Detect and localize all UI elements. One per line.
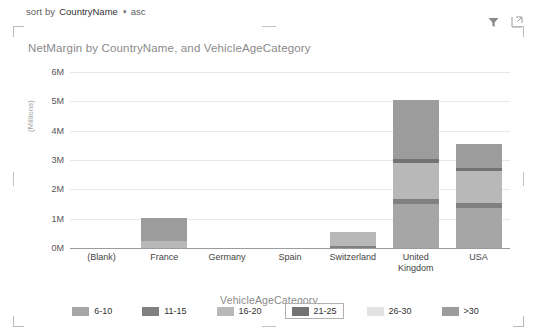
chart-legend: 6-1011-1516-2021-2526-30>30 <box>28 302 523 320</box>
chevron-down-icon[interactable]: ▾ <box>123 8 127 15</box>
legend-item[interactable]: 11-15 <box>135 303 193 319</box>
resize-handle-bottom[interactable] <box>262 326 276 327</box>
y-axis-tick-label: 1M <box>32 214 64 224</box>
y-axis-tick-label: 2M <box>32 184 64 194</box>
legend-label: 26-30 <box>389 306 412 316</box>
legend-label: >30 <box>464 306 479 316</box>
resize-handle-right[interactable] <box>523 172 524 186</box>
x-axis-tick-label: France <box>133 252 196 263</box>
bar-segment[interactable] <box>141 241 187 248</box>
bar-stack[interactable] <box>141 218 187 248</box>
bar-segment[interactable] <box>393 100 439 159</box>
legend-item[interactable]: 6-10 <box>65 303 119 319</box>
legend-swatch <box>142 307 159 316</box>
x-axis-tick-label: USA <box>447 252 510 263</box>
chart-title: NetMargin by CountryName, and VehicleAge… <box>28 42 311 54</box>
chart-plot-area: (Millions) 0M1M2M3M4M5M6M (Blank)FranceG… <box>28 72 510 272</box>
y-axis-tick-label: 5M <box>32 96 64 106</box>
legend-item[interactable]: >30 <box>435 303 486 319</box>
legend-item[interactable]: 26-30 <box>360 303 419 319</box>
x-axis-tick-label: Switzerland <box>321 252 384 263</box>
x-axis-tick-label: Germany <box>196 252 259 263</box>
legend-label: 11-15 <box>164 306 186 316</box>
x-axis-tick-label: (Blank) <box>70 252 133 263</box>
y-axis-tick-label: 3M <box>32 155 64 165</box>
legend-swatch <box>217 307 234 316</box>
sort-direction-button[interactable]: asc <box>131 6 146 17</box>
bar-segment[interactable] <box>456 171 502 203</box>
y-axis-tick-label: 4M <box>32 126 64 136</box>
bar-stack[interactable] <box>393 100 439 248</box>
bar-segment[interactable] <box>330 232 376 246</box>
bar-segment[interactable] <box>393 204 439 248</box>
x-axis-line <box>70 248 510 249</box>
legend-swatch <box>292 307 309 316</box>
bar-segment[interactable] <box>456 208 502 248</box>
y-axis-tick-label: 0M <box>32 243 64 253</box>
sort-by-label: sort by <box>26 6 55 17</box>
legend-label: 16-20 <box>239 306 262 316</box>
resize-handle-bottom-left[interactable] <box>13 316 24 327</box>
legend-item[interactable]: 21-25 <box>285 303 344 319</box>
legend-swatch <box>72 307 89 316</box>
bar-stack[interactable] <box>330 232 376 248</box>
resize-handle-left[interactable] <box>13 172 14 186</box>
resize-handle-top-right[interactable] <box>513 26 524 37</box>
filter-icon[interactable] <box>488 14 499 32</box>
sort-field-button[interactable]: CountryName <box>59 6 118 17</box>
bar-segment[interactable] <box>456 144 502 168</box>
legend-swatch <box>367 307 384 316</box>
bar-segment[interactable] <box>141 218 187 240</box>
legend-item[interactable]: 16-20 <box>210 303 269 319</box>
legend-swatch <box>442 307 459 316</box>
bar-segment[interactable] <box>393 163 439 199</box>
bars-container <box>70 72 510 248</box>
bar-segment[interactable] <box>330 246 376 248</box>
legend-label: 6-10 <box>94 306 112 316</box>
resize-handle-top[interactable] <box>262 26 276 27</box>
x-axis-tick-label: Spain <box>259 252 322 263</box>
y-axis-tick-label: 6M <box>32 67 64 77</box>
resize-handle-top-left[interactable] <box>13 26 24 37</box>
legend-label: 21-25 <box>314 306 337 316</box>
x-axis-tick-label: United Kingdom <box>384 252 447 274</box>
sort-bar: sort by CountryName ▾ asc <box>0 0 537 22</box>
bar-stack[interactable] <box>456 144 502 248</box>
